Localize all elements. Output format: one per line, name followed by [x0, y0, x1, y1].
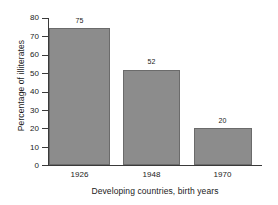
- bar-value-1970: 20: [202, 117, 243, 125]
- bar-chart-figure: Percentage of illiterates 80 70 60 50 40…: [0, 0, 278, 205]
- y-tick-label-80: 80: [14, 14, 39, 22]
- y-tick-label-20: 20: [14, 125, 39, 133]
- bar-value-1926: 75: [59, 17, 100, 25]
- x-axis-line: [48, 165, 262, 166]
- x-tick-label-1948: 1948: [131, 170, 172, 179]
- x-tick-label-1926: 1926: [59, 170, 100, 179]
- x-axis-title: Developing countries, birth years: [40, 186, 270, 196]
- y-tick-label-50: 50: [14, 70, 39, 78]
- bar-1970: [194, 128, 252, 165]
- bar-value-1948: 52: [131, 58, 172, 66]
- y-tick-label-10: 10: [14, 144, 39, 152]
- y-tick-label-40: 40: [14, 88, 39, 96]
- y-tick-label-0: 0: [14, 162, 39, 170]
- y-tick-label-30: 30: [14, 107, 39, 115]
- bar-1926: [49, 28, 110, 165]
- x-tick-label-1970: 1970: [202, 170, 243, 179]
- y-tick-label-70: 70: [14, 33, 39, 41]
- y-tick-label-60: 60: [14, 51, 39, 59]
- bar-1948: [123, 70, 180, 166]
